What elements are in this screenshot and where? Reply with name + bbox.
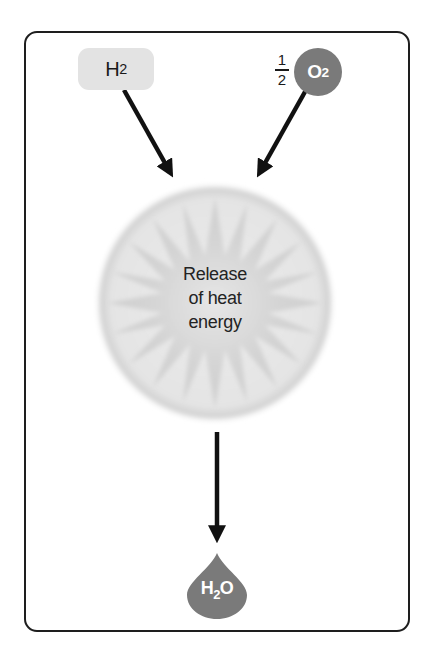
heat-label-line-2: of heat [150, 286, 280, 310]
arrow-hydrogen-to-reaction [124, 90, 170, 172]
oxygen-subscript: 2 [322, 65, 329, 80]
water-subscript: 2 [213, 587, 220, 602]
hydrogen-label: H [105, 58, 119, 81]
water-label: H [201, 578, 214, 598]
heat-label-line-3: energy [150, 310, 280, 334]
oxygen-molecule: O2 [294, 48, 342, 96]
oxygen-label: O [307, 61, 321, 83]
heat-release-label: Release of heat energy [150, 262, 280, 334]
coefficient-numerator: 1 [278, 51, 286, 68]
hydrogen-molecule: H2 [78, 48, 154, 90]
water-molecule-label: H2O [187, 578, 247, 602]
coefficient-denominator: 2 [278, 71, 286, 88]
water-suffix: O [220, 578, 234, 598]
hydrogen-subscript: 2 [119, 61, 127, 77]
oxygen-coefficient: 1 2 [275, 52, 289, 88]
arrow-oxygen-to-reaction [260, 90, 306, 172]
heat-label-line-1: Release [150, 262, 280, 286]
